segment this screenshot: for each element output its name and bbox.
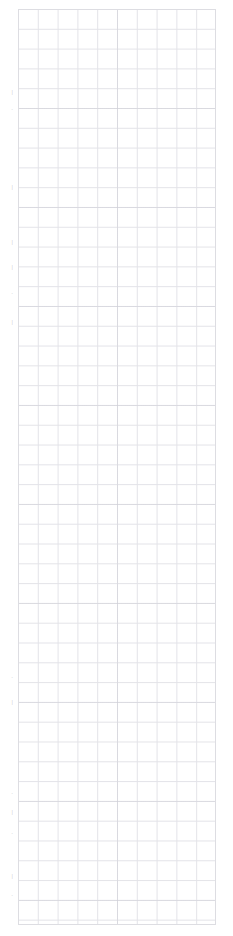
margin-fragment: . [11,828,13,836]
margin-fragment: | [12,872,13,880]
grid-border-right [215,9,216,925]
margin-fragment: . [11,672,13,680]
grid-border-left [18,9,19,925]
margin-fragment: | [12,88,13,96]
grid-border-top [18,9,216,10]
page-canvas: |.|||.|.|.|.|. [0,0,233,936]
margin-fragment: | [12,238,13,246]
margin-fragment: | [12,808,13,816]
margin-fragment: . [11,288,13,296]
margin-clipped-text: |.|||.|.|.|.|. [0,0,16,936]
margin-fragment: | [12,318,13,326]
margin-fragment: . [11,890,13,898]
margin-fragment: | [12,183,13,191]
margin-fragment: | [12,698,13,706]
grid-border-bottom [18,924,216,925]
margin-fragment: . [11,788,13,796]
graph-paper-grid [18,9,216,925]
grid-major-lines-overlay [18,9,216,925]
margin-fragment: . [11,104,13,112]
margin-fragment: | [12,263,13,271]
